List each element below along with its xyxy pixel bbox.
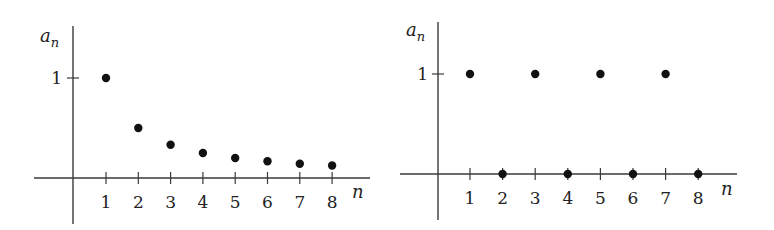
data-points [102, 74, 336, 170]
y-axis-label: an [40, 25, 59, 50]
data-point [629, 170, 637, 178]
x-tick-label: 2 [497, 188, 508, 208]
left-chart: 1 12345678 an n [34, 25, 370, 224]
data-point [199, 149, 207, 157]
x-tick-label: 3 [530, 188, 541, 208]
x-tick-label: 1 [101, 192, 112, 212]
data-point [231, 154, 239, 162]
x-tick-label: 4 [197, 192, 208, 212]
x-tick-label: 6 [262, 192, 273, 212]
x-tick-label: 2 [133, 192, 144, 212]
x-tick-label: 8 [693, 188, 704, 208]
x-tick-label: 5 [230, 192, 241, 212]
data-point [328, 161, 336, 169]
x-tick-label: 1 [465, 188, 476, 208]
data-point [564, 170, 572, 178]
data-point [263, 157, 271, 165]
data-point [102, 74, 110, 82]
data-point [531, 70, 539, 78]
y-tick-label: 1 [51, 68, 62, 88]
y-tick-label: 1 [417, 64, 428, 84]
x-tick-label: 5 [595, 188, 606, 208]
x-tick-label: 6 [628, 188, 639, 208]
x-tick-label: 4 [562, 188, 573, 208]
x-tick-label: 3 [165, 192, 176, 212]
x-tick-label: 7 [294, 192, 305, 212]
x-axis-label: n [352, 181, 364, 202]
data-points [466, 70, 703, 178]
data-point [694, 170, 702, 178]
data-point [596, 70, 604, 78]
x-axis-label: n [721, 178, 733, 199]
figure: 1 12345678 an n 1 12345678 an n [0, 0, 774, 230]
x-tick-label: 7 [660, 188, 671, 208]
data-point [296, 160, 304, 168]
data-point [661, 70, 669, 78]
data-point [466, 70, 474, 78]
data-point [166, 141, 174, 149]
data-point [498, 170, 506, 178]
right-chart: 1 12345678 an n [400, 19, 737, 220]
x-tick-label: 8 [327, 192, 338, 212]
data-point [134, 124, 142, 132]
y-axis-label: an [406, 19, 425, 44]
